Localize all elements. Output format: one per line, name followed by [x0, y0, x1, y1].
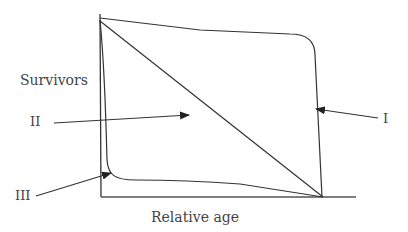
curve-label-ii: II — [30, 115, 40, 128]
curve-label-i: I — [383, 112, 388, 125]
survivorship-diagram — [0, 0, 408, 232]
y-axis-label: Survivors — [20, 73, 88, 87]
x-axis-label: Relative age — [151, 210, 239, 224]
arrow-i — [316, 109, 378, 118]
arrow-ii — [54, 115, 189, 123]
curve-label-iii: III — [15, 189, 30, 202]
y-axis — [100, 14, 101, 197]
curve-ii — [100, 21, 323, 197]
arrow-iii — [36, 173, 111, 196]
